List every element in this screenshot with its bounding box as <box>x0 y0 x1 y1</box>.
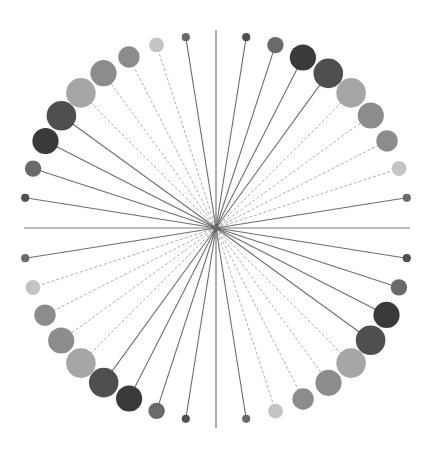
spoke-dot-14 <box>315 370 341 396</box>
spoke-dot-2 <box>290 44 316 70</box>
spoke-line-3 <box>216 73 328 228</box>
spoke-line-16 <box>216 228 276 411</box>
spoke-dot-19 <box>148 403 164 419</box>
spoke-line-34 <box>157 45 217 228</box>
spoke-line-12 <box>216 228 371 340</box>
spoke-line-4 <box>216 93 351 228</box>
spoke-line-22 <box>81 228 216 363</box>
spoke-dot-29 <box>32 128 58 154</box>
spoke-dot-25 <box>26 280 41 295</box>
spoke-dot-22 <box>66 348 96 378</box>
spoke-dot-7 <box>392 161 407 176</box>
spoke-dot-28 <box>25 160 41 176</box>
spoke-dot-20 <box>116 385 142 411</box>
spoke-dot-0 <box>242 33 250 41</box>
spoke-dot-12 <box>356 326 386 356</box>
spoke-line-23 <box>61 228 216 341</box>
spoke-line-14 <box>216 228 329 383</box>
spoke-dot-31 <box>66 78 96 108</box>
spoke-line-25 <box>33 228 216 288</box>
spoke-dot-21 <box>89 368 119 398</box>
spoke-line-21 <box>104 228 216 383</box>
spoke-dot-1 <box>267 37 283 53</box>
radial-chart <box>0 0 436 456</box>
spoke-line-7 <box>216 169 399 229</box>
spoke-dot-30 <box>47 101 77 131</box>
spoke-dot-16 <box>268 404 283 419</box>
spoke-dot-17 <box>242 415 250 423</box>
spoke-dot-18 <box>182 415 190 423</box>
spoke-line-13 <box>216 228 351 363</box>
radial-chart-svg <box>0 0 436 456</box>
spoke-line-32 <box>104 73 217 228</box>
spoke-dot-33 <box>118 46 139 67</box>
spoke-dot-35 <box>182 33 190 41</box>
spoke-dot-11 <box>373 302 399 328</box>
spoke-dot-34 <box>149 38 164 53</box>
spoke-line-30 <box>61 116 216 228</box>
spoke-dot-9 <box>403 254 411 262</box>
spoke-dot-10 <box>391 279 407 295</box>
spoke-line-5 <box>216 116 371 229</box>
spoke-line-19 <box>157 228 216 411</box>
spoke-dot-3 <box>314 59 344 89</box>
spoke-line-1 <box>216 45 275 228</box>
spoke-dot-27 <box>21 194 29 202</box>
spoke-dot-5 <box>358 102 384 128</box>
center-hub <box>212 224 220 232</box>
spoke-line-28 <box>33 169 216 228</box>
spoke-dot-24 <box>34 304 55 325</box>
spoke-dot-32 <box>90 60 116 86</box>
spoke-dot-8 <box>403 194 411 202</box>
spoke-dot-6 <box>376 130 397 151</box>
spoke-dot-23 <box>48 327 74 353</box>
spoke-line-31 <box>81 93 216 228</box>
spoke-dot-15 <box>292 388 313 409</box>
spoke-dot-13 <box>336 348 366 378</box>
spoke-dot-26 <box>21 254 29 262</box>
spoke-dot-4 <box>336 78 366 108</box>
spoke-line-10 <box>216 228 399 287</box>
